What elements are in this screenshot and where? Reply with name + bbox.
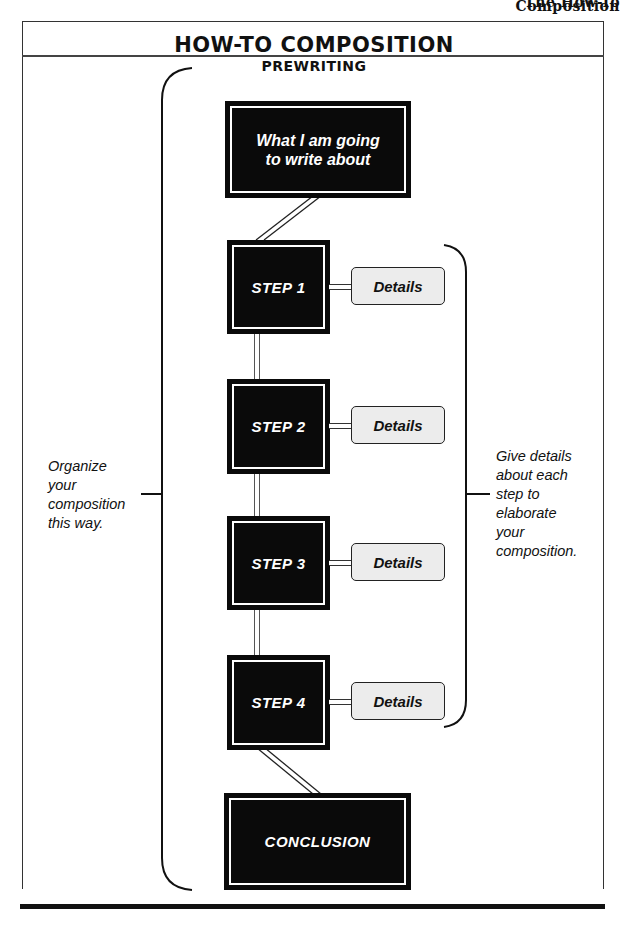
details-connector-1 [329, 284, 353, 290]
connector-step2-step3 [254, 472, 260, 516]
details-connector-4 [329, 699, 353, 705]
step-label: STEP 1 [251, 279, 305, 296]
step-box-3: STEP 3 [227, 516, 330, 610]
left-note: Organize your composition this way. [48, 457, 125, 533]
left-brace [162, 68, 192, 890]
topic-box: What I am going to write about [225, 101, 411, 198]
details-box-2: Details [351, 406, 445, 444]
conclusion-label: CONCLUSION [265, 833, 371, 850]
connector-step3-step4 [254, 608, 260, 656]
step-box-1: STEP 1 [227, 240, 330, 334]
step-label: STEP 4 [251, 694, 305, 711]
topic-line-1: What I am going [256, 131, 380, 150]
step-label: STEP 2 [251, 418, 305, 435]
right-brace [444, 245, 466, 727]
details-connector-3 [329, 560, 353, 566]
details-box-4: Details [351, 682, 445, 720]
details-box-1: Details [351, 267, 445, 305]
right-note: Give details about each step to elaborat… [496, 447, 577, 561]
connector-step1-step2 [254, 332, 260, 380]
step-box-4: STEP 4 [227, 655, 330, 750]
conclusion-box: CONCLUSION [224, 793, 411, 890]
details-box-3: Details [351, 543, 445, 581]
step-box-2: STEP 2 [227, 379, 330, 474]
step-label: STEP 3 [251, 555, 305, 572]
topic-line-2: to write about [256, 150, 380, 169]
details-connector-2 [329, 423, 353, 429]
